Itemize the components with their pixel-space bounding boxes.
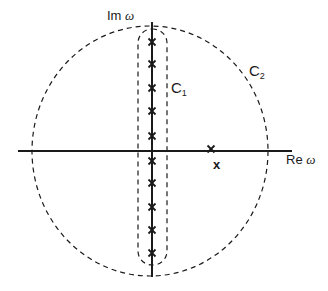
imaginary-axis-label: Im ω: [107, 9, 134, 22]
c1-subscript: 1: [182, 88, 187, 98]
contour-c1-label: C1: [171, 80, 187, 98]
real-axis-label: Re ω: [286, 153, 315, 166]
c2-letter: C: [249, 62, 260, 79]
imag-variable: ω: [125, 8, 134, 23]
imag-label-text: Im: [107, 8, 121, 23]
real-label-text: Re: [286, 152, 303, 167]
diagram-svg: [0, 0, 328, 291]
c2-subscript: 2: [260, 71, 265, 81]
contour-c2-label: C2: [249, 63, 265, 81]
real-variable: ω: [306, 152, 315, 167]
complex-plane-diagram: Im ω Re ω C1 C2 x: [0, 0, 328, 291]
extra-x-marker: x: [213, 158, 220, 171]
c1-letter: C: [171, 79, 182, 96]
